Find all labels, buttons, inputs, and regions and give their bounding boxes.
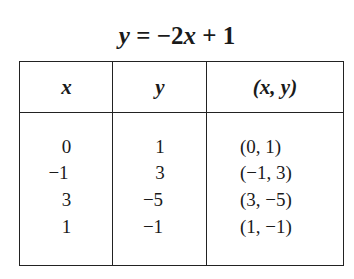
cell-y: −1 [106, 214, 200, 240]
cell-pair: (1, −1) [240, 214, 354, 240]
cell-x: 1 [20, 214, 113, 240]
cell-y: 1 [113, 134, 207, 160]
header-divider [20, 112, 343, 113]
equation-eq: = −2 [130, 22, 184, 49]
header-x: x [20, 62, 113, 112]
header-pair: (x, y) [207, 62, 343, 112]
cell-y: −5 [106, 187, 200, 213]
cell-pair: (3, −5) [240, 187, 354, 213]
values-table: x y (x, y) 0 1 (0, 1) −1 3 (−1, 3) 3 −5 … [19, 61, 344, 266]
cell-x: −1 [12, 160, 105, 186]
equation-lhs: y [119, 22, 130, 49]
equation-title: y = −2x + 1 [0, 22, 354, 50]
cell-y: 3 [113, 160, 207, 186]
equation-var: x [183, 22, 196, 49]
cell-x: 0 [20, 134, 113, 160]
equation-rest: + 1 [196, 22, 235, 49]
header-y: y [113, 62, 207, 112]
cell-pair: (−1, 3) [240, 160, 354, 186]
cell-pair: (0, 1) [240, 134, 354, 160]
cell-x: 3 [20, 187, 113, 213]
